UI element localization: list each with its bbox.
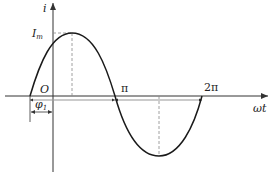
two-pi-label: 2π bbox=[204, 81, 218, 94]
peak-label: Im bbox=[31, 27, 43, 41]
pi-label: π bbox=[121, 82, 128, 95]
x-axis-label: ωt bbox=[253, 102, 267, 115]
sine-curve bbox=[30, 33, 202, 156]
origin-label: O bbox=[40, 83, 49, 96]
waveform-diagram: i ωt O Im π 2π φ1 bbox=[0, 0, 272, 173]
y-axis-label: i bbox=[43, 2, 47, 15]
